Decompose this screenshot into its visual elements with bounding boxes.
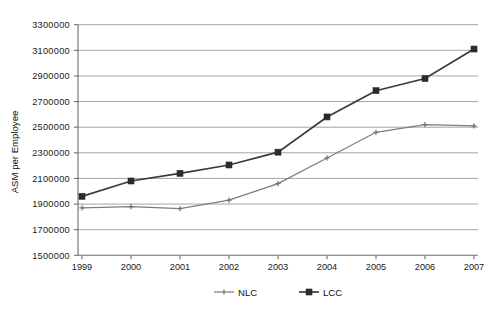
data-point-nlc	[177, 206, 182, 211]
line-chart: 3300000310000029000002700000250000023000…	[0, 0, 494, 313]
y-axis-tick-label: 2900000	[32, 71, 70, 81]
x-axis-tick-label: 2003	[268, 262, 288, 272]
y-axis-tick-label: 3300000	[32, 20, 70, 30]
y-axis-tick-label: 2100000	[32, 174, 70, 184]
y-axis-tick-label: 2300000	[32, 148, 70, 158]
data-point-nlc	[373, 130, 378, 135]
x-axis-tick-label: 2002	[219, 262, 239, 272]
series-line-lcc	[82, 49, 474, 196]
data-point-lcc	[226, 162, 232, 168]
data-point-lcc	[177, 170, 183, 176]
x-axis-tick-labels: 199920002001200220032004200520062007	[72, 262, 484, 272]
x-axis-tick-label: 2005	[366, 262, 386, 272]
axis-ticks-group	[74, 25, 474, 260]
x-axis-tick-label: 2006	[415, 262, 435, 272]
data-point-lcc	[471, 46, 477, 52]
data-point-nlc	[324, 155, 329, 160]
y-axis-tick-label: 3100000	[32, 46, 70, 56]
data-point-nlc	[471, 123, 476, 128]
data-point-lcc	[275, 149, 281, 155]
series-line-nlc	[82, 125, 474, 209]
data-point-nlc	[226, 198, 231, 203]
gridlines-group	[78, 25, 478, 230]
y-axis-tick-label: 2700000	[32, 97, 70, 107]
x-axis-tick-label: 2007	[464, 262, 484, 272]
axes-group	[78, 25, 478, 256]
y-axis-title: ASM per Employee	[9, 111, 20, 194]
data-point-nlc	[422, 122, 427, 127]
data-point-nlc	[79, 205, 84, 210]
data-point-nlc	[275, 181, 280, 186]
data-point-lcc	[128, 178, 134, 184]
x-axis-tick-label: 2001	[170, 262, 190, 272]
x-axis-tick-label: 1999	[72, 262, 92, 272]
legend-marker-lcc	[306, 289, 312, 295]
data-point-lcc	[324, 114, 330, 120]
y-axis-tick-label: 1500000	[32, 251, 70, 261]
legend-label-nlc: NLC	[238, 287, 257, 298]
data-series-layer	[79, 46, 477, 211]
data-point-lcc	[422, 76, 428, 82]
x-axis-tick-label: 2004	[317, 262, 337, 272]
y-axis-tick-labels: 3300000310000029000002700000250000023000…	[32, 20, 70, 261]
data-point-lcc	[373, 88, 379, 94]
y-axis-tick-label: 1900000	[32, 199, 70, 209]
y-axis-tick-label: 2500000	[32, 122, 70, 132]
chart-legend: NLCLCC	[214, 287, 342, 298]
data-point-nlc	[128, 204, 133, 209]
data-point-lcc	[79, 193, 85, 199]
chart-container: 3300000310000029000002700000250000023000…	[0, 0, 494, 313]
y-axis-tick-label: 1700000	[32, 225, 70, 235]
x-axis-tick-label: 2000	[121, 262, 141, 272]
legend-label-lcc: LCC	[323, 287, 342, 298]
